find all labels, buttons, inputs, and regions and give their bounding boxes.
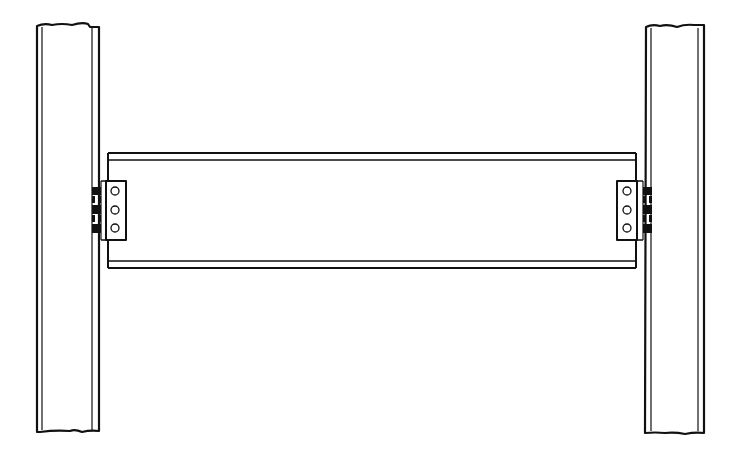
bolt-nuts-left	[92, 187, 101, 233]
right-clip-angle	[617, 181, 652, 240]
left-clip-angle	[92, 181, 126, 240]
left-column	[37, 23, 99, 432]
beam-column-diagram	[0, 0, 741, 450]
right-column	[645, 25, 704, 434]
bolt-nuts-right	[643, 187, 652, 233]
beam	[108, 153, 636, 268]
